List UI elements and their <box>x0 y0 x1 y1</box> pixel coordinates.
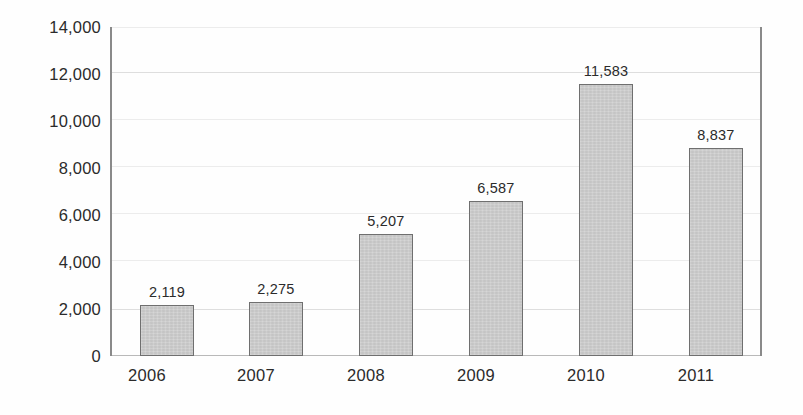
x-tick-label-2006: 2006 <box>97 366 197 385</box>
chart-figure: 14,000 12,000 10,000 8,000 6,000 4,000 2… <box>0 0 803 415</box>
x-tick-label-2010: 2010 <box>536 366 636 385</box>
value-label-2010: 11,583 <box>561 63 651 79</box>
y-tick-label-6000: 6,000 <box>59 206 101 225</box>
x-tick-label-2011: 2011 <box>646 366 746 385</box>
y-tick-label-0: 0 <box>92 347 101 366</box>
bar-2008[interactable] <box>359 234 413 356</box>
y-tick-label-8000: 8,000 <box>59 159 101 178</box>
plot-area: 2,119 2,275 5,207 6,587 11,583 8,837 <box>110 27 762 356</box>
bar-2011[interactable] <box>689 148 743 356</box>
gridline-6000 <box>112 213 760 214</box>
y-axis-line <box>110 27 112 356</box>
value-label-2011: 8,837 <box>671 127 761 143</box>
x-tick-label-2009: 2009 <box>426 366 526 385</box>
plot-right-border <box>760 27 762 356</box>
gridline-14000 <box>112 27 760 28</box>
x-tick-label-2008: 2008 <box>316 366 416 385</box>
gridline-4000 <box>112 260 760 261</box>
gridline-2000 <box>112 309 760 310</box>
bar-2006[interactable] <box>140 305 194 356</box>
y-tick-label-12000: 12,000 <box>49 65 101 84</box>
gridline-0-baseline <box>112 355 760 356</box>
x-tick-label-2007: 2007 <box>206 366 306 385</box>
gridline-8000 <box>112 166 760 167</box>
y-tick-label-4000: 4,000 <box>59 253 101 272</box>
value-label-2008: 5,207 <box>341 213 431 229</box>
value-label-2006: 2,119 <box>122 284 212 300</box>
y-axis-tick-labels: 14,000 12,000 10,000 8,000 6,000 4,000 2… <box>0 0 101 415</box>
bar-2009[interactable] <box>469 201 523 356</box>
y-tick-label-14000: 14,000 <box>49 18 101 37</box>
y-tick-label-10000: 10,000 <box>49 112 101 131</box>
bar-2007[interactable] <box>249 302 303 356</box>
gridline-12000 <box>112 72 760 73</box>
value-label-2009: 6,587 <box>451 180 541 196</box>
y-tick-label-2000: 2,000 <box>59 300 101 319</box>
gridline-10000 <box>112 119 760 120</box>
value-label-2007: 2,275 <box>231 281 321 297</box>
bar-2010[interactable] <box>579 84 633 356</box>
